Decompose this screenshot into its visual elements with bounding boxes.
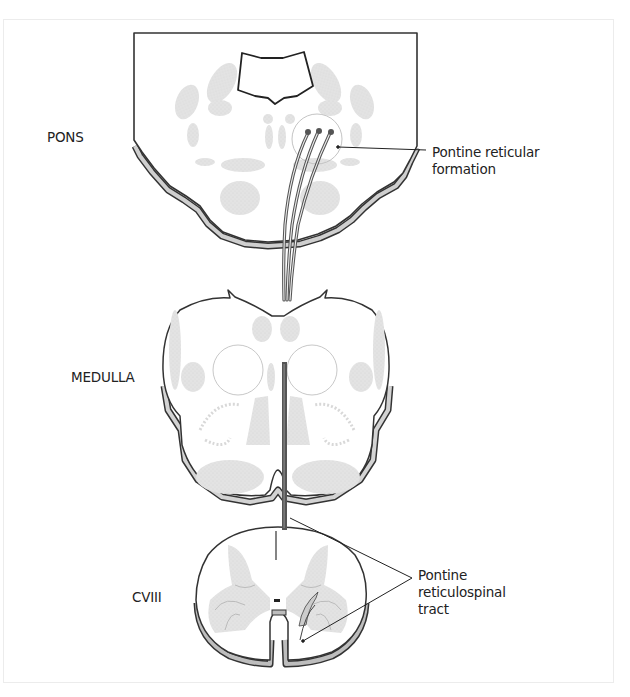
label-line: Pontine reticular: [432, 144, 572, 161]
label-line: tract: [418, 601, 538, 618]
label-pons: PONS: [47, 129, 84, 146]
medulla-outline: [163, 290, 389, 496]
central-canal: [274, 599, 280, 602]
medulla-section: [163, 290, 390, 502]
right-circle-region: [287, 345, 337, 395]
label-line: reticulospinal: [418, 584, 538, 601]
neuron-body: [305, 129, 311, 135]
label-pontine-reticulospinal-tract: Pontine reticulospinal tract: [418, 567, 538, 618]
neuron-body: [316, 128, 322, 134]
spinal-cord-section: [196, 527, 366, 664]
neuron-body: [328, 129, 334, 135]
label-line: formation: [432, 161, 572, 178]
left-circle-region: [213, 345, 263, 395]
label-medulla: MEDULLA: [71, 369, 135, 386]
label-cviii: CVIII: [132, 589, 162, 606]
label-line: Pontine: [418, 567, 538, 584]
label-pontine-reticular-formation: Pontine reticular formation: [432, 144, 572, 178]
pons-section: [134, 33, 417, 246]
